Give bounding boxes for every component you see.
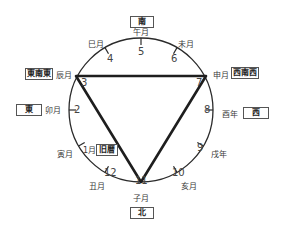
month-11-name: 子月 <box>133 194 149 203</box>
month-7-num: 7 <box>196 78 202 88</box>
month-9-num: 9 <box>197 143 203 153</box>
east-box: 東 <box>16 104 42 116</box>
month-6-num: 6 <box>171 54 177 64</box>
month-12-name: 丑月 <box>89 182 105 191</box>
month-3-name: 辰月 <box>56 71 72 80</box>
month-4-num: 4 <box>107 54 113 64</box>
month-4-name: 巳月 <box>88 40 104 49</box>
month-9-name: 戌年 <box>211 150 227 159</box>
month-2-name: 卯月 <box>45 106 61 115</box>
month-10-name: 亥月 <box>181 182 197 191</box>
month-8-num: 8 <box>204 105 210 115</box>
month-11-num: 11 <box>135 176 148 186</box>
south-box: 南 <box>130 16 154 28</box>
wsw-box: 西南西 <box>231 67 259 79</box>
month-2-num: 2 <box>74 105 80 115</box>
month-6-name: 未月 <box>178 40 194 49</box>
month-10-num: 10 <box>172 168 185 178</box>
month-3-num: 3 <box>81 78 87 88</box>
month-5-num: 5 <box>138 47 144 57</box>
month-5-name: 午月 <box>133 28 149 37</box>
west-box: 西 <box>243 107 269 119</box>
month-12-num: 12 <box>104 168 117 178</box>
month-7-name: 申月 <box>213 71 229 80</box>
month-circle <box>69 38 213 182</box>
north-box: 北 <box>130 207 154 219</box>
ese-box: 東南東 <box>25 68 53 80</box>
month-8-name: 酉年 <box>222 110 238 119</box>
one-month-label: 1月 <box>83 146 96 155</box>
month-1-name: 寅月 <box>57 150 73 159</box>
old-calendar-box: 旧暦 <box>96 144 118 156</box>
